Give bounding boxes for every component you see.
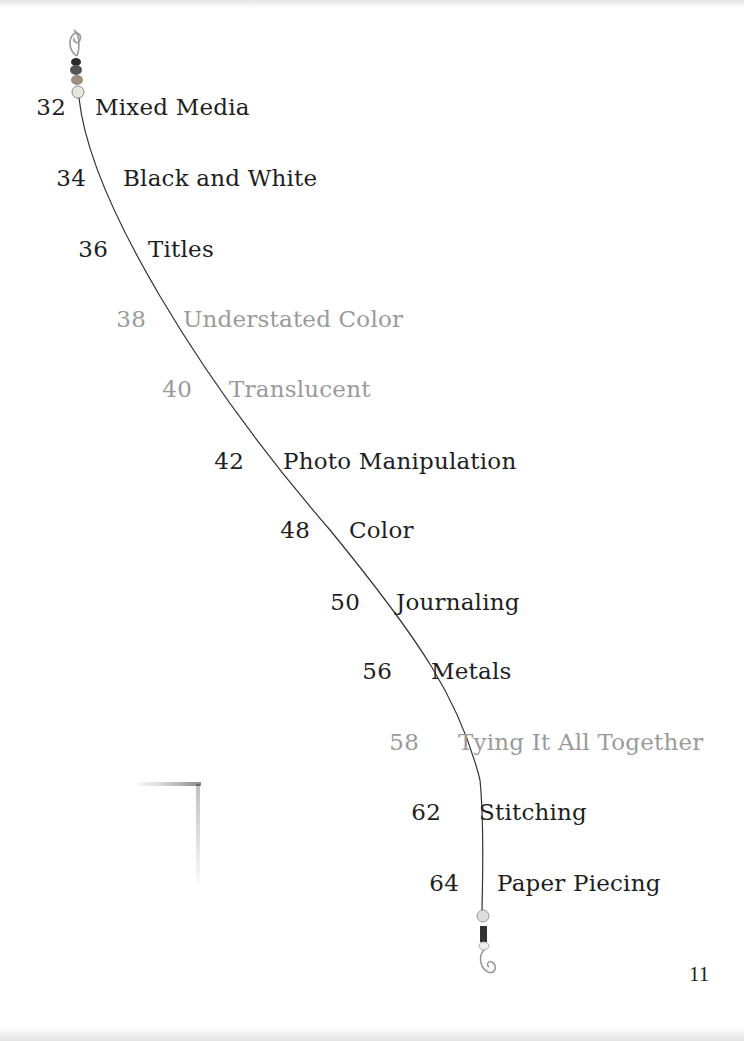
toc-title: Photo Manipulation [283, 448, 516, 474]
toc-title: Translucent [229, 376, 371, 402]
toc-title: Black and White [123, 165, 317, 191]
toc-page-number: 40 [132, 376, 192, 402]
wire-line [79, 98, 480, 780]
toc-page-number: 42 [184, 448, 244, 474]
toc-page-number: 36 [48, 236, 108, 262]
toc-title: Paper Piecing [497, 870, 661, 896]
toc-page-number: 34 [26, 165, 86, 191]
toc-page-number: 38 [86, 306, 146, 332]
toc-page-number: 48 [250, 517, 310, 543]
bottom-edge-shadow [0, 1027, 744, 1041]
top-spiral-icon [70, 30, 80, 56]
page-number: 11 [689, 962, 709, 987]
toc-title: Mixed Media [95, 94, 250, 120]
smudge-mark [196, 784, 200, 884]
toc-title: Stitching [479, 799, 587, 825]
toc-title: Journaling [396, 589, 520, 615]
toc-title: Color [349, 517, 414, 543]
toc-page-number: 50 [300, 589, 360, 615]
toc-title: Metals [431, 658, 511, 684]
toc-page-number: 58 [359, 729, 419, 755]
toc-title: Tying It All Together [458, 729, 703, 755]
toc-page-number: 64 [399, 870, 459, 896]
bottom-spiral-icon [481, 950, 496, 973]
smudge-mark [133, 782, 201, 786]
toc-title: Titles [148, 236, 214, 262]
toc-page-number: 62 [381, 799, 441, 825]
toc-title: Understated Color [183, 306, 403, 332]
toc-page-number: 32 [6, 94, 66, 120]
toc-page-number: 56 [332, 658, 392, 684]
